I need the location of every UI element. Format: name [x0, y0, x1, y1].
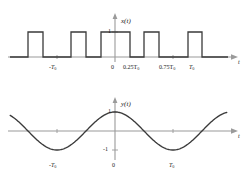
- bottom-amplitude-label: 1: [108, 108, 111, 114]
- top-y-axis-arrow: [113, 13, 118, 19]
- top-tick-label-quarter-text: 0.25T: [123, 64, 137, 70]
- bottom-tick-label-minus-t0: -T0: [49, 162, 56, 168]
- top-x-axis-arrow: [231, 54, 238, 59]
- square-wave-trace: [10, 32, 228, 57]
- top-tick-label-quarter: 0.25T0: [123, 64, 139, 70]
- bottom-tick-label-t0: T0: [169, 162, 174, 168]
- top-x-axis-label: t: [238, 59, 240, 65]
- cosine-wave-helper: [10, 112, 228, 151]
- bottom-tick-label-zero: 0: [112, 162, 115, 168]
- bottom-x-axis-label: t: [238, 133, 240, 139]
- bottom-y-axis-arrow: [113, 97, 118, 103]
- top-tick-label-quarter-sub: 0: [137, 66, 139, 71]
- bottom-amplitude-neg-label: -1: [103, 146, 108, 152]
- top-tick-label-three-quarter-text: 0.75T: [159, 64, 173, 70]
- top-signal-label: x(t): [121, 18, 131, 25]
- bottom-x-axis-arrow: [231, 128, 238, 133]
- top-tick-label-three-quarter-sub: 0: [173, 66, 175, 71]
- signal-figure: x(t) 1 -T0 0 0.25T0 0.75T0 T0 t y(t: [0, 0, 248, 179]
- top-tick-label-zero: 0: [111, 64, 114, 70]
- top-amplitude-label: 1: [108, 28, 111, 34]
- square-wave-plot: x(t) 1 -T0 0 0.25T0 0.75T0 T0 t: [0, 0, 248, 90]
- top-tick-label-t0: T0: [189, 64, 194, 70]
- square-wave-canvas: [0, 0, 248, 90]
- top-tick-label-minus-t0: -T0: [49, 64, 56, 70]
- top-tick-label-three-quarter: 0.75T0: [159, 64, 175, 70]
- bottom-signal-label: y(t): [121, 101, 131, 108]
- cosine-wave-plot: y(t) 1 -1 -T0 0 T0 t: [0, 88, 248, 179]
